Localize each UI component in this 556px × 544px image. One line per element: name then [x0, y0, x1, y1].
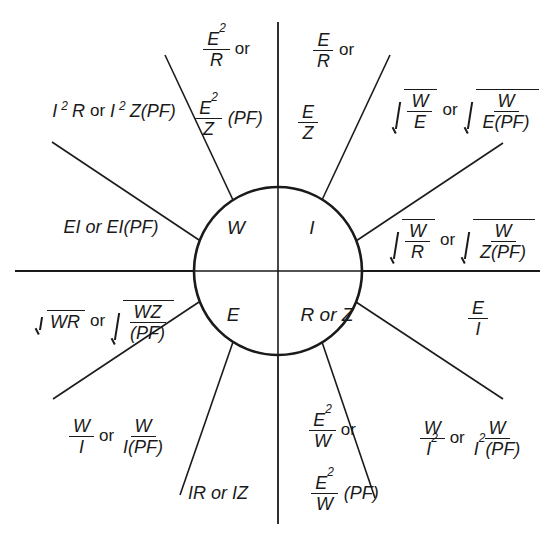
- frac-num: W: [131, 417, 156, 437]
- radical-body: W Z(PF): [473, 219, 535, 261]
- core-label-power: W: [206, 213, 266, 243]
- formula-e-over-r-expr: E R or: [313, 31, 355, 70]
- pf-suffix: (PF): [226, 109, 263, 128]
- sym-e4: E: [315, 473, 327, 493]
- frac-num: W: [69, 417, 94, 437]
- sup-2c: 2: [219, 21, 226, 35]
- radical-w-over-e-pf: W E(PF): [463, 89, 539, 131]
- frac-num: E: [313, 31, 333, 51]
- formula-sqrt-w-over-e-expr: W E or W E(PF): [391, 89, 538, 131]
- sym-i2: I: [110, 102, 115, 121]
- formula-ir-iz-text: IR or IZ: [188, 484, 248, 503]
- frac-den: I: [471, 319, 484, 338]
- frac-w-zpf: W Z(PF): [476, 222, 530, 261]
- frac-num: W: [494, 92, 519, 112]
- formula-e2-over-w-pf: E2 W (PF): [294, 466, 396, 520]
- frac-den: (PF): [126, 323, 169, 342]
- formula-e2-over-z-pf-expr: E2 Z (PF): [195, 99, 263, 138]
- frac-w-e: W E: [407, 92, 432, 131]
- or-text-7: or: [98, 427, 115, 445]
- or-text-3: or: [338, 41, 355, 59]
- radical-tick: [463, 89, 476, 131]
- formula-e2-over-r: E2 R or: [178, 24, 276, 74]
- formula-e-over-r: E R or: [288, 26, 380, 74]
- sym-e3: E: [313, 410, 325, 430]
- radical-body: W E: [404, 89, 437, 131]
- frac-den: R: [407, 242, 428, 261]
- frac-den: E: [410, 112, 430, 131]
- formula-w-over-i-group: W I or W I(PF): [30, 408, 206, 464]
- radical-tick: [110, 300, 123, 342]
- frac-den: Z: [298, 123, 317, 142]
- or-text-6: or: [89, 312, 106, 330]
- or-text-2: or: [234, 40, 251, 58]
- frac-e2-z: E2 Z: [195, 99, 222, 138]
- frac-den: Z: [199, 119, 218, 138]
- radical-w-over-e: W E: [391, 89, 437, 131]
- frac-den: Z(PF): [476, 242, 530, 261]
- formula-e-over-z: E Z: [288, 98, 328, 146]
- sym-i4: I: [474, 439, 479, 459]
- frac-wz-pf: WZ (PF): [126, 303, 169, 342]
- formula-ei-or-ei-pf: EI or EI(PF): [28, 213, 194, 241]
- sym-r: R: [72, 102, 85, 121]
- pf-inline: (PF): [485, 439, 520, 459]
- formula-sqrt-w-over-r-group: W R or W Z(PF): [370, 212, 554, 268]
- or-text-9: or: [449, 429, 466, 447]
- frac-w-epf: W E(PF): [479, 92, 534, 131]
- formula-i2r-expr: I2R or I2Z(PF): [52, 102, 175, 121]
- frac-e2-r: E2 R: [203, 30, 230, 69]
- frac-w-i2pf: W I2(PF): [470, 419, 525, 458]
- sym-e: E: [207, 29, 219, 49]
- or-text: or: [89, 102, 106, 120]
- frac-den: W: [312, 494, 337, 513]
- frac-num: E2: [195, 99, 222, 119]
- frac-w-i2: W I2: [420, 419, 445, 458]
- or-text-4: or: [441, 101, 458, 119]
- frac-den: E(PF): [479, 112, 534, 131]
- sup-2f: 2: [327, 465, 334, 479]
- sup-2h: 2: [479, 431, 486, 445]
- formula-i2r-or-i2z-pf: I2R or I2Z(PF): [26, 97, 202, 125]
- core-label-current: I: [292, 213, 332, 243]
- frac-e2-w-2: E2 W: [311, 474, 338, 513]
- radical-tick: [391, 89, 404, 131]
- frac-w-ipf: W I(PF): [119, 417, 167, 456]
- core-label-voltage: E: [208, 300, 258, 330]
- frac-num: WZ: [130, 303, 166, 323]
- radical-body: W E(PF): [476, 89, 539, 131]
- formula-w-over-i2-expr: W I2 or W I2(PF): [420, 419, 525, 458]
- sup-2d: 2: [211, 90, 218, 104]
- frac-den: I: [75, 437, 88, 456]
- core-power-text: W: [227, 218, 245, 238]
- formula-w-over-i-expr: W I or W I(PF): [69, 417, 167, 456]
- frac-num: W: [405, 222, 430, 242]
- pf-suffix-2: (PF): [342, 484, 379, 503]
- frac-num: E: [468, 299, 488, 319]
- radical-tick: [460, 219, 473, 261]
- formula-e2-over-r-expr: E2 R or: [203, 30, 251, 69]
- formula-ir-or-iz: IR or IZ: [170, 480, 266, 506]
- formula-e-over-i: E I: [456, 292, 500, 344]
- frac-num: W: [485, 419, 510, 439]
- sup-2g: 2: [431, 431, 438, 445]
- radical-tick: [34, 310, 47, 332]
- formula-e2-over-w-expr: E2 W or: [309, 411, 357, 450]
- frac-den: R: [206, 50, 227, 69]
- core-resistance-text: R or Z: [301, 305, 354, 325]
- radicand-wr: WR: [50, 313, 80, 332]
- radical-tick: [389, 219, 402, 261]
- core-voltage-text: E: [227, 305, 240, 325]
- frac-e-z: E Z: [298, 103, 318, 142]
- sym-e2: E: [199, 98, 211, 118]
- sym-zpf: Z(PF): [130, 102, 176, 121]
- formula-wheel-diagram: W I E R or Z I2R or I2Z(PF) E2 R or E2: [0, 0, 556, 544]
- frac-num: E2: [309, 411, 336, 431]
- frac-den: W: [310, 431, 335, 450]
- frac-den: I2(PF): [470, 439, 525, 458]
- frac-e-i: E I: [468, 299, 488, 338]
- frac-den: I(PF): [119, 437, 167, 456]
- formula-sqrt-w-over-r-expr: W R or W Z(PF): [389, 219, 535, 261]
- formula-e2-over-w: E2 W or: [290, 404, 376, 456]
- core-label-resistance: R or Z: [288, 300, 366, 330]
